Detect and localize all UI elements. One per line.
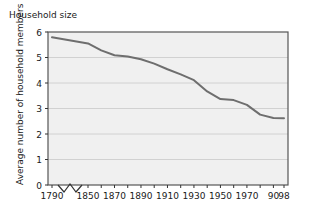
x-axis-tick-label: 98 [278, 191, 290, 201]
x-axis-tick-label: 1950 [209, 191, 232, 201]
y-axis-tick-label: 2 [36, 130, 42, 140]
y-axis-tick-label: 6 [36, 28, 42, 38]
y-axis-tick-label: 4 [36, 79, 42, 89]
x-axis-tick-label: 1890 [130, 191, 153, 201]
household-size-chart-figure: Household size Average number of househo… [0, 0, 315, 215]
x-axis-tick-label: 1930 [182, 191, 205, 201]
y-axis-tick-label: 1 [36, 155, 42, 165]
x-axis-tick-label: 1870 [103, 191, 126, 201]
y-axis-tick-labels: 0123456 [36, 28, 42, 191]
y-axis-tick-label: 3 [36, 104, 42, 114]
x-axis-tick-label: 1970 [235, 191, 258, 201]
y-axis-tick-label: 0 [36, 181, 42, 191]
plot-area: 0123456 17901850187018901910193019501970… [0, 0, 315, 215]
x-axis-tick-label: 1850 [77, 191, 100, 201]
x-axis-tick-labels: 179018501870189019101930195019709098 [41, 191, 290, 201]
y-axis-tick-label: 5 [36, 53, 42, 63]
x-axis-tick-label: 1910 [156, 191, 179, 201]
x-axis-tick-label: 1790 [41, 191, 64, 201]
